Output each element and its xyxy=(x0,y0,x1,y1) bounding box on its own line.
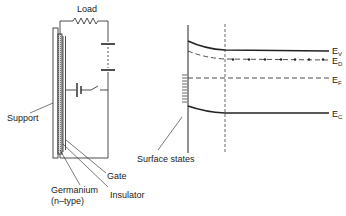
band-diagram xyxy=(158,24,329,153)
surface-state-ticks xyxy=(182,75,187,102)
germanium-layer xyxy=(58,34,62,154)
germanium-type-label: (n–type) xyxy=(51,196,84,206)
insulator-label: Insulator xyxy=(110,190,145,200)
load-resistor-icon xyxy=(73,18,98,24)
circuit-diagram xyxy=(30,18,115,187)
ev-band-line xyxy=(188,41,329,51)
diagram-canvas: Load Support Gate Germanium (n–type) Ins… xyxy=(0,0,346,216)
svg-text:V: V xyxy=(338,51,342,57)
load-label: Load xyxy=(77,4,97,14)
support-label: Support xyxy=(7,113,39,123)
surface-states-label: Surface states xyxy=(137,154,195,164)
ec-band-line xyxy=(188,106,329,113)
switch-icon xyxy=(91,86,98,90)
load-wire xyxy=(60,21,73,34)
svg-text:F: F xyxy=(338,80,342,86)
ed-label: E D xyxy=(332,56,343,67)
germanium-label: Germanium xyxy=(51,185,98,195)
svg-text:C: C xyxy=(338,114,343,120)
ef-label: E F xyxy=(332,75,342,86)
support-plate xyxy=(53,28,58,158)
ec-label: E C xyxy=(332,109,343,120)
ed-level-line xyxy=(188,51,329,60)
svg-text:D: D xyxy=(338,61,343,67)
gate-label: Gate xyxy=(107,171,127,181)
